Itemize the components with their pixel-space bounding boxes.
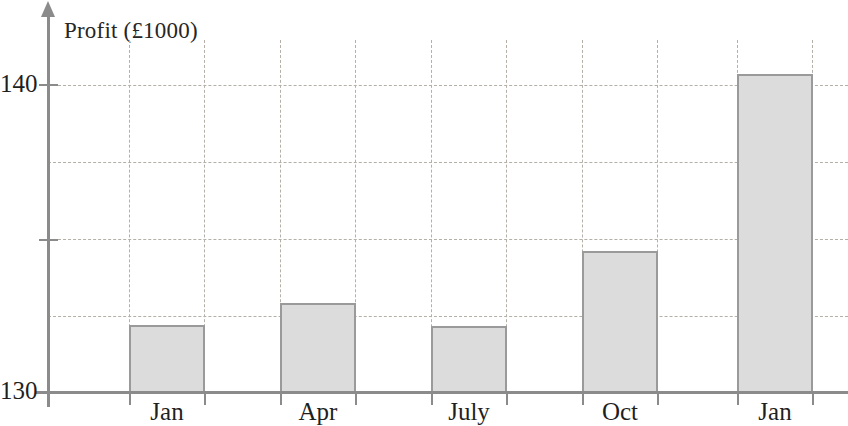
gridline-horizontal-135 (48, 239, 848, 240)
y-tick-label-140: 140 (0, 71, 36, 96)
x-axis-label-jan-1: Jan (127, 398, 207, 426)
x-axis-origin-tick (47, 391, 50, 407)
y-tick-mark-135 (39, 239, 58, 241)
bar-jan-2 (737, 74, 813, 393)
x-axis-line (36, 391, 848, 394)
y-tick-mark-140 (39, 84, 58, 86)
bar-oct (582, 251, 658, 393)
gridline-horizontal-132-5 (48, 316, 848, 317)
y-tick-label-130: 130 (0, 378, 36, 403)
bar-july (431, 326, 507, 393)
bar-jan-1 (129, 325, 205, 393)
gridline-horizontal-140 (48, 85, 848, 86)
x-axis-label-jan-2: Jan (735, 398, 815, 426)
x-axis-label-apr: Apr (278, 398, 358, 426)
y-axis-title: Profit (£1000) (64, 18, 198, 44)
gridline-horizontal-137-5 (48, 162, 848, 163)
x-axis-label-oct: Oct (580, 398, 660, 426)
bar-chart: Profit (£1000) 140 130 Jan Apr July Oct (0, 0, 848, 426)
y-axis-line (47, 14, 50, 393)
bar-apr (280, 303, 356, 393)
y-axis-arrow-icon (41, 1, 55, 17)
x-axis-label-july: July (429, 398, 509, 426)
